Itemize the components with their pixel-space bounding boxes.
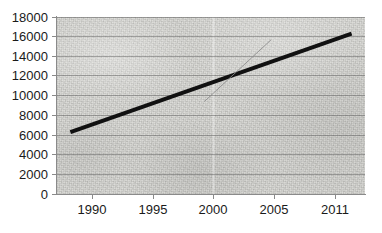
gridline-12000 <box>57 75 365 76</box>
x-tick-1990 <box>92 194 93 199</box>
y-tick-18000 <box>52 17 57 18</box>
y-axis-label-2000: 2000 <box>19 168 48 181</box>
gridline-2000 <box>57 174 365 175</box>
y-axis-label-8000: 8000 <box>19 109 48 122</box>
x-axis-line <box>56 194 366 195</box>
y-tick-6000 <box>52 135 57 136</box>
y-tick-12000 <box>52 75 57 76</box>
y-axis-label-16000: 16000 <box>12 30 48 43</box>
y-axis-label-0: 0 <box>41 188 48 201</box>
y-tick-8000 <box>52 115 57 116</box>
y-axis-label-18000: 18000 <box>12 11 48 24</box>
x-axis-label-2000: 2000 <box>199 203 228 217</box>
x-axis-label-1990: 1990 <box>78 203 107 217</box>
scan-seam <box>212 17 215 194</box>
gridline-14000 <box>57 56 365 57</box>
y-tick-0 <box>52 194 57 195</box>
scan-noise-fine <box>57 17 365 194</box>
plot-area <box>57 17 365 194</box>
y-axis-line <box>56 16 57 195</box>
y-axis-label-12000: 12000 <box>12 69 48 82</box>
x-tick-2000 <box>213 194 214 199</box>
y-tick-2000 <box>52 174 57 175</box>
gridline-8000 <box>57 115 365 116</box>
gridline-10000 <box>57 95 365 96</box>
scan-noise-diagonal <box>57 17 365 194</box>
gridline-4000 <box>57 154 365 155</box>
y-tick-14000 <box>52 56 57 57</box>
y-axis-label-4000: 4000 <box>19 148 48 161</box>
x-tick-1995 <box>153 194 154 199</box>
gridline-18000 <box>57 17 365 18</box>
x-axis-label-2005: 2005 <box>260 203 289 217</box>
gridline-6000 <box>57 135 365 136</box>
y-tick-16000 <box>52 36 57 37</box>
x-tick-2011 <box>335 194 336 199</box>
scan-noise-blotches <box>57 17 365 194</box>
y-axis-label-10000: 10000 <box>12 89 48 102</box>
x-axis-label-1995: 1995 <box>139 203 168 217</box>
y-axis-label-14000: 14000 <box>12 50 48 63</box>
y-tick-10000 <box>52 95 57 96</box>
gridline-16000 <box>57 36 365 37</box>
x-axis-label-2011: 2011 <box>321 203 349 217</box>
x-tick-2005 <box>274 194 275 199</box>
y-axis-label-6000: 6000 <box>19 129 48 142</box>
chart-figure: 18000 16000 14000 12000 10000 8000 6000 … <box>0 0 382 233</box>
y-tick-4000 <box>52 154 57 155</box>
